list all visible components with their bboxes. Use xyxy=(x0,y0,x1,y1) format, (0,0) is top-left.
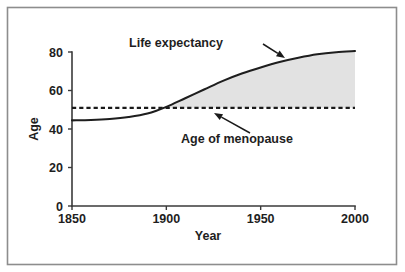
y-tick-label: 80 xyxy=(49,46,63,60)
y-tick-label: 40 xyxy=(49,123,63,137)
x-tick-label: 1850 xyxy=(58,212,86,226)
figure-container: 020406080 1850190019502000 Life expectan… xyxy=(0,0,405,272)
x-tick-label: 1950 xyxy=(247,212,275,226)
life-expectancy-label: Life expectancy xyxy=(129,36,223,50)
x-tick-label: 1900 xyxy=(152,212,180,226)
y-tick-label: 60 xyxy=(49,84,63,98)
y-tick-label: 20 xyxy=(49,161,63,175)
x-axis-title: Year xyxy=(195,229,222,243)
y-axis-title: Age xyxy=(27,117,41,141)
x-tick-label: 2000 xyxy=(341,212,369,226)
age-of-menopause-label: Age of menopause xyxy=(181,132,293,146)
life-expectancy-chart: 020406080 1850190019502000 Life expectan… xyxy=(0,0,405,272)
